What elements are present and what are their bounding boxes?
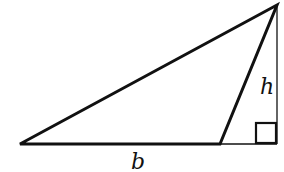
right-angle-marker xyxy=(256,123,276,143)
triangle xyxy=(20,5,277,144)
diagram-canvas: h b xyxy=(0,0,284,172)
triangle-diagram: h b xyxy=(0,0,284,172)
height-label: h xyxy=(260,74,274,99)
base-label: b xyxy=(131,149,145,172)
